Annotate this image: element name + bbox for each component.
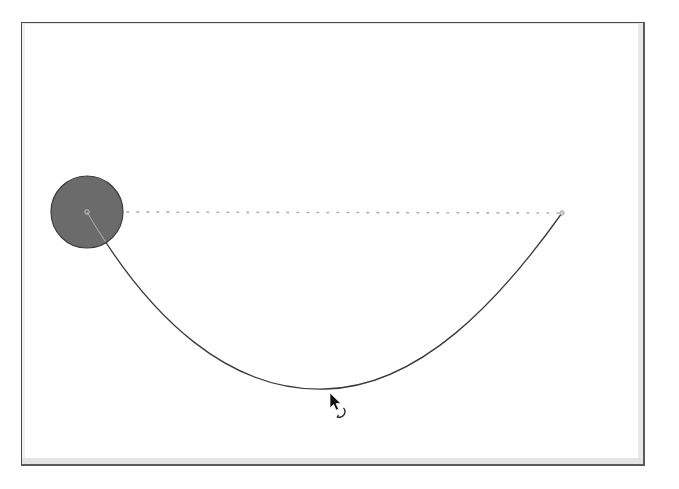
rotate-cursor-icon — [330, 393, 345, 418]
pendulum-curve-path[interactable] — [87, 212, 562, 389]
anchor-point-marker-icon[interactable] — [560, 211, 564, 215]
dotted-guide-line — [87, 212, 562, 213]
drawing-canvas[interactable] — [0, 0, 679, 489]
